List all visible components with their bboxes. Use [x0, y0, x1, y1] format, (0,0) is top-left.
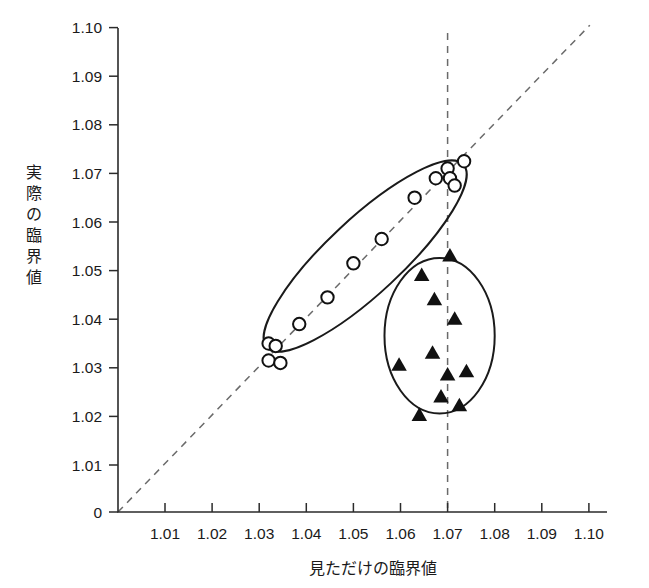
x-axis-tick-label: 1.09 [527, 525, 557, 542]
y-axis-tick-label: 1.03 [72, 359, 102, 376]
data-point-filled-triangle [425, 345, 441, 359]
y-axis-title-char: 際 [26, 184, 42, 203]
data-point-open-circle [269, 340, 281, 352]
y-axis-title-char: 値 [26, 268, 42, 287]
data-point-filled-triangle [391, 357, 407, 371]
x-axis-tick-label: 1.08 [480, 525, 510, 542]
data-point-open-circle [458, 155, 470, 167]
x-axis-title: 見ただけの臨界値 [309, 560, 437, 577]
y-axis-tick-label: 1.06 [72, 214, 102, 231]
x-axis-tick-label: 1.10 [574, 525, 605, 542]
y-axis-tick-label: 1.08 [72, 116, 102, 133]
data-point-filled-triangle [427, 292, 443, 306]
data-point-open-circle [347, 257, 359, 269]
y-axis-title-char: 臨 [26, 226, 42, 245]
x-axis-tick-label: 1.07 [433, 525, 463, 542]
data-point-open-circle [321, 291, 333, 303]
data-point-filled-triangle [440, 367, 456, 381]
x-axis-tick-label: 1.02 [197, 525, 227, 542]
data-point-filled-triangle [447, 311, 463, 325]
data-point-filled-triangle [433, 389, 449, 403]
y-axis-tick-label: 1.10 [72, 19, 103, 36]
data-point-open-circle [293, 318, 305, 330]
x-axis-tick-label: 1.04 [291, 525, 322, 542]
x-axis-tick-label: 1.05 [338, 525, 368, 542]
y-axis-title-char: の [26, 205, 42, 224]
ellipse-biased-group [384, 258, 494, 414]
y-axis-title-char: 実 [26, 163, 42, 182]
data-point-filled-triangle [459, 364, 475, 378]
data-point-filled-triangle [412, 407, 428, 421]
y-axis-tick-label: 1.07 [72, 165, 102, 182]
y-axis-tick-label: 1.05 [72, 262, 102, 279]
y-axis-title-char: 界 [26, 247, 42, 266]
data-point-open-circle [274, 357, 286, 369]
data-point-filled-triangle [442, 248, 458, 262]
data-point-filled-triangle [414, 267, 430, 281]
y-axis-tick-label: 1.02 [72, 408, 102, 425]
data-point-open-circle [262, 354, 274, 366]
x-axis-tick-label: 1.03 [244, 525, 274, 542]
data-point-open-circle [375, 233, 387, 245]
y-axis-tick-label: 0 [93, 504, 102, 521]
y-axis-tick-label: 1.09 [72, 68, 102, 85]
data-point-open-circle [448, 179, 460, 191]
x-axis-tick-label: 1.01 [150, 525, 180, 542]
scatter-plot-svg: 01.011.021.031.041.051.061.071.081.091.1… [0, 0, 649, 588]
y-axis-tick-label: 1.04 [72, 311, 103, 328]
x-axis-tick-label: 1.06 [385, 525, 415, 542]
scatter-plot-figure: 01.011.021.031.041.051.061.071.081.091.1… [0, 0, 649, 588]
y-axis-tick-label: 1.01 [72, 457, 102, 474]
data-point-open-circle [430, 172, 442, 184]
data-point-open-circle [408, 192, 420, 204]
axis-spines [118, 28, 607, 512]
